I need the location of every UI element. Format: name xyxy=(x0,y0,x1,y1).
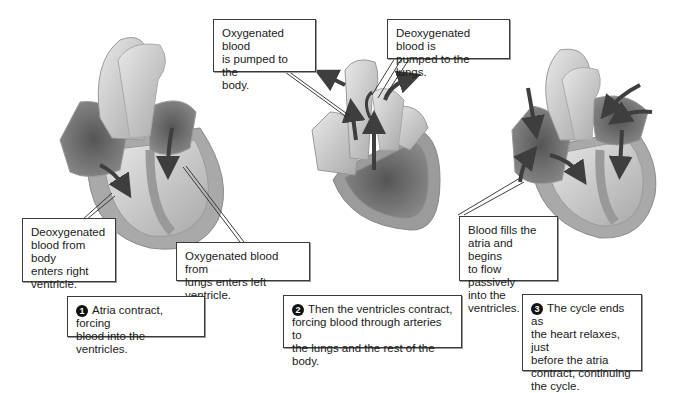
step-number-2-icon: 2 xyxy=(292,304,304,316)
step-number-3-icon: 3 xyxy=(531,303,543,315)
callout-oxygenated-to-body: Oxygenated blood is pumped to the body. xyxy=(213,19,316,72)
callout-line: Oxygenated blood from xyxy=(185,250,301,276)
step-text: contract, continuing xyxy=(531,367,633,380)
step-3-caption: 3The cycle ends as the heart relaxes, ju… xyxy=(522,294,642,371)
step-text: blood into the ventricles. xyxy=(76,330,196,356)
step-line: 3The cycle ends as xyxy=(531,302,633,328)
step-line: 1Atria contract, forcing xyxy=(76,304,196,330)
step-text: the lungs and the rest of the body. xyxy=(292,342,453,368)
callout-line: Oxygenated blood xyxy=(222,27,307,53)
step-1-caption: 1Atria contract, forcing blood into the … xyxy=(67,296,205,337)
step-text: Atria contract, forcing xyxy=(76,304,163,329)
callout-deoxygenated-to-lungs: Deoxygenated blood is pumped to the lung… xyxy=(387,19,510,59)
step-text: before the atria xyxy=(531,354,633,367)
callout-deoxygenated-right-ventricle: Deoxygenated blood from body enters righ… xyxy=(22,218,116,282)
callout-line: to flow passively xyxy=(468,263,549,289)
callout-line: Blood fills the xyxy=(468,224,549,237)
callout-line: ventricle. xyxy=(31,278,107,291)
heart-ventricular-systole xyxy=(312,60,440,230)
step-number-1-icon: 1 xyxy=(76,305,88,317)
callout-line: blood from body xyxy=(31,239,107,265)
step-line: 2Then the ventricles contract, xyxy=(292,303,453,316)
step-text: the cycle. xyxy=(531,380,633,393)
step-2-caption: 2Then the ventricles contract, forcing b… xyxy=(283,295,462,348)
heart-diastole xyxy=(512,49,656,238)
step-text: The cycle ends as xyxy=(531,302,624,327)
step-text: the heart relaxes, just xyxy=(531,328,633,354)
callout-line: enters right xyxy=(31,265,107,278)
callout-line: pumped to the lungs. xyxy=(396,53,501,79)
callout-oxygenated-left-ventricle: Oxygenated blood from lungs enters left … xyxy=(176,242,310,281)
callout-line: Deoxygenated blood is xyxy=(396,27,501,53)
callout-line: atria and begins xyxy=(468,237,549,263)
callout-line: body. xyxy=(222,79,307,92)
step-text: Then the ventricles contract, xyxy=(308,303,452,315)
callout-line: Deoxygenated xyxy=(31,226,107,239)
step-text: forcing blood through arteries to xyxy=(292,316,453,342)
callout-blood-fills-atria: Blood fills the atria and begins to flow… xyxy=(459,216,558,281)
callout-line: is pumped to the xyxy=(222,53,307,79)
